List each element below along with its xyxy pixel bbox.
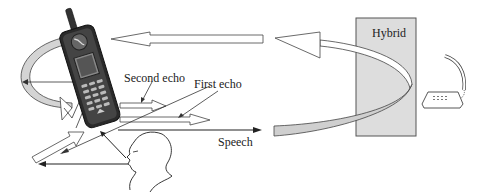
mouth-phone-arrow — [100, 131, 126, 158]
desk-telephone — [422, 56, 464, 108]
second-echo-label: Second echo — [124, 72, 185, 84]
speaker-head — [127, 132, 172, 192]
speech-arrow — [118, 127, 262, 133]
lower-left-hollow-arrow — [32, 132, 84, 163]
incoming-far-end-arrow — [111, 32, 263, 46]
first-echo-pointer — [180, 91, 218, 117]
hybrid-label: Hybrid — [372, 27, 406, 39]
diagram-canvas — [0, 0, 489, 194]
echo-arrows-right — [120, 100, 210, 125]
speech-label: Speech — [218, 136, 253, 148]
mouth-direct-arrow — [38, 161, 128, 167]
first-echo-label: First echo — [194, 78, 242, 90]
echo-diagram: Hybrid Second echo First echo Speech — [0, 0, 489, 194]
